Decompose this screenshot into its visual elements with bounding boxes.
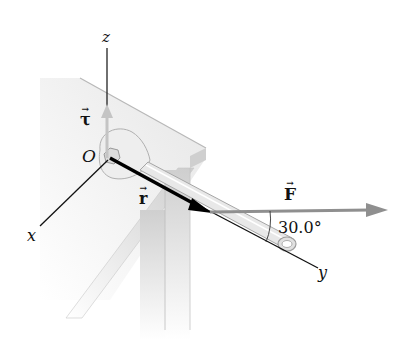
origin-label: O <box>82 148 96 165</box>
diagram-graphics <box>0 0 405 349</box>
position-label: → r <box>139 185 147 207</box>
torque-wrench-diagram: z x y O → τ → r → F 30.0° <box>0 0 405 349</box>
angle-label: 30.0° <box>278 220 322 236</box>
table <box>40 78 206 340</box>
position-symbol: r <box>139 189 147 208</box>
force-arrowhead <box>366 203 388 217</box>
force-label: → F <box>284 180 296 203</box>
x-axis-label: x <box>27 228 36 244</box>
torque-label: → τ <box>80 106 91 128</box>
z-axis-label: z <box>102 30 110 45</box>
force-symbol: F <box>284 184 296 204</box>
y-axis-label: y <box>318 265 327 281</box>
y-axis <box>200 206 318 268</box>
torque-symbol: τ <box>80 110 91 129</box>
